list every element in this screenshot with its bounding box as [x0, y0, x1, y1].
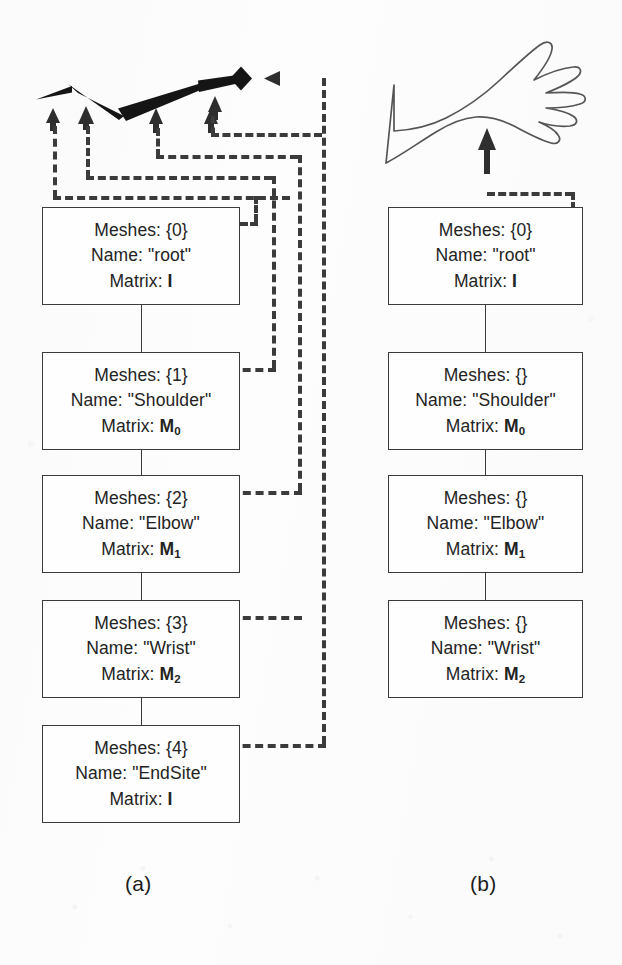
node-b-wrist-meshes: Meshes: {} [444, 612, 528, 635]
caption-b: (b) [470, 872, 497, 896]
node-b-wrist[interactable]: Meshes: {} Name: "Wrist" Matrix: M2 [388, 600, 583, 698]
node-b-elbow-meshes: Meshes: {} [444, 487, 528, 510]
dash-b-horizontal [487, 192, 573, 196]
node-b-shoulder-name: Name: "Shoulder" [415, 389, 556, 412]
node-b-wrist-name: Name: "Wrist" [431, 637, 541, 660]
node-b-root-name: Name: "root" [435, 244, 535, 267]
caption-a: (a) [125, 872, 152, 896]
arm-pointer-arrow [478, 128, 496, 174]
figure-root: Meshes: {0} Name: "root" Matrix: I Meshe… [0, 0, 622, 965]
link-b-root-shoulder [485, 305, 486, 352]
node-b-root-matrix: Matrix: I [454, 270, 517, 293]
node-b-root-meshes: Meshes: {0} [439, 219, 533, 242]
link-b-shoulder-elbow [485, 450, 486, 475]
node-b-shoulder-meshes: Meshes: {} [444, 364, 528, 387]
node-b-shoulder-matrix: Matrix: M0 [446, 415, 525, 438]
node-b-root[interactable]: Meshes: {0} Name: "root" Matrix: I [388, 207, 583, 305]
node-b-elbow[interactable]: Meshes: {} Name: "Elbow" Matrix: M1 [388, 475, 583, 573]
node-b-elbow-matrix: Matrix: M1 [446, 538, 525, 561]
node-b-wrist-matrix: Matrix: M2 [446, 663, 525, 686]
link-b-elbow-wrist [485, 573, 486, 600]
node-b-elbow-name: Name: "Elbow" [427, 512, 545, 535]
node-b-shoulder[interactable]: Meshes: {} Name: "Shoulder" Matrix: M0 [388, 352, 583, 450]
